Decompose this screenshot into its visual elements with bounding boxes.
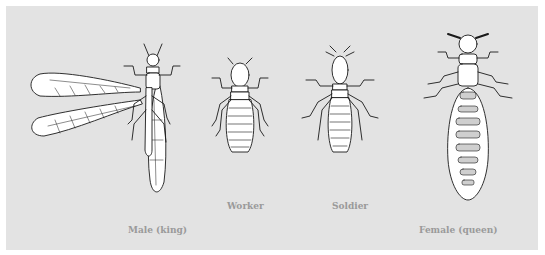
worker-label: Worker bbox=[227, 201, 264, 211]
male-king-figure bbox=[31, 44, 180, 192]
female-queen-figure bbox=[424, 34, 512, 200]
soldier-label: Soldier bbox=[332, 201, 368, 211]
termite-castes-illustration bbox=[0, 0, 545, 255]
worker-figure bbox=[212, 58, 268, 152]
soldier-figure bbox=[302, 46, 378, 152]
male-king-label: Male (king) bbox=[128, 225, 187, 235]
female-queen-label: Female (queen) bbox=[419, 225, 498, 235]
